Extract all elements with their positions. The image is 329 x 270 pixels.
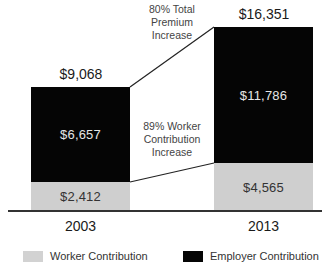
annotation-line: 89% Worker <box>130 120 214 133</box>
bar-2003-worker: $2,412 <box>31 182 130 211</box>
worker-increase-connector <box>130 163 214 182</box>
legend-item-employer: Employer Contribution <box>183 250 319 262</box>
annotation-line: Premium <box>132 16 212 29</box>
total-label-2003: $9,068 <box>21 66 141 82</box>
x-tick-2013: 2013 <box>214 218 313 234</box>
legend-label-worker: Worker Contribution <box>50 250 148 262</box>
employer-swatch-icon <box>183 251 203 262</box>
bar-2003-employer: $6,657 <box>31 87 130 182</box>
bar-2013-employer: $11,786 <box>214 27 313 163</box>
employer-value-2013: $11,786 <box>240 88 287 103</box>
x-axis-line <box>8 210 322 212</box>
annotation-line: 80% Total <box>132 3 212 16</box>
legend-label-employer: Employer Contribution <box>210 250 319 262</box>
annotation-line: Increase <box>130 146 214 159</box>
total-increase-annotation: 80% Total Premium Increase <box>132 3 212 42</box>
worker-value-2013: $4,565 <box>243 180 284 195</box>
worker-swatch-icon <box>23 251 43 262</box>
annotation-line: Contribution <box>130 133 214 146</box>
bar-2013-worker: $4,565 <box>214 163 313 211</box>
total-label-2013: $16,351 <box>204 6 324 22</box>
employer-value-2003: $6,657 <box>60 127 101 142</box>
legend-item-worker: Worker Contribution <box>23 250 148 262</box>
annotation-line: Increase <box>132 29 212 42</box>
x-tick-2003: 2003 <box>31 218 130 234</box>
worker-value-2003: $2,412 <box>60 189 101 204</box>
worker-increase-annotation: 89% Worker Contribution Increase <box>130 120 214 159</box>
